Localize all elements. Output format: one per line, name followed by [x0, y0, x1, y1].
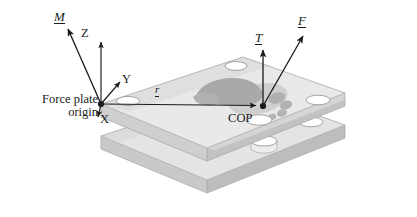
torque-vector-label: T [255, 31, 262, 45]
upper-plate-hole-right [306, 95, 330, 105]
upper-plate-hole-back [225, 62, 247, 71]
figure-canvas: Force plate origin COP M Z Y X T F r [0, 0, 417, 217]
position-vector-label: r [155, 85, 159, 97]
force-vector-label: F [298, 14, 306, 28]
moment-vector-label: M [54, 10, 65, 24]
z-axis-label: Z [81, 27, 89, 40]
x-axis-label: X [100, 113, 109, 126]
force-plate-origin-line2: origin [68, 105, 98, 119]
force-plate-origin-line1: Force plate [42, 92, 98, 106]
y-axis-label: Y [122, 73, 131, 86]
origin-marker [98, 101, 104, 107]
force-plate-origin-label: Force plate origin [2, 93, 98, 119]
cop-label: COP [228, 112, 253, 125]
cop-marker [260, 103, 266, 109]
